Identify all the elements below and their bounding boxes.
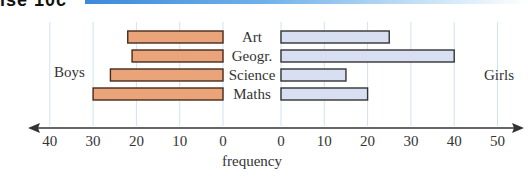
bar-boys — [128, 31, 223, 43]
back-to-back-bar-chart: ArtGeogr.ScienceMaths 403020100010203040… — [0, 0, 528, 183]
bar-boys — [132, 50, 223, 62]
category-label: Science — [229, 67, 276, 83]
tick-label: 20 — [360, 133, 375, 149]
bar-girls — [281, 31, 389, 43]
x-axis — [28, 123, 524, 133]
x-axis-label: frequency — [222, 153, 282, 169]
bar-girls — [281, 69, 346, 81]
tick-label: 40 — [42, 133, 57, 149]
category-label: Geogr. — [232, 48, 272, 64]
tick-label: 30 — [86, 133, 101, 149]
tick-label: 30 — [403, 133, 418, 149]
side-label-girls: Girls — [484, 67, 514, 83]
category-label: Art — [242, 29, 263, 45]
tick-label: 50 — [490, 133, 505, 149]
tick-labels: 40302010001020304050 — [42, 133, 505, 149]
tick-label: 10 — [172, 133, 187, 149]
tick-label: 0 — [219, 133, 227, 149]
tick-label: 40 — [447, 133, 462, 149]
category-label: Maths — [233, 86, 271, 102]
side-label-boys: Boys — [54, 64, 85, 80]
category-labels: ArtGeogr.ScienceMaths — [229, 29, 276, 102]
tick-label: 0 — [277, 133, 285, 149]
tick-label: 20 — [129, 133, 144, 149]
bar-boys — [93, 88, 223, 100]
bar-boys — [110, 69, 223, 81]
bars — [93, 31, 454, 100]
tick-label: 10 — [317, 133, 332, 149]
bar-girls — [281, 88, 368, 100]
bar-girls — [281, 50, 454, 62]
